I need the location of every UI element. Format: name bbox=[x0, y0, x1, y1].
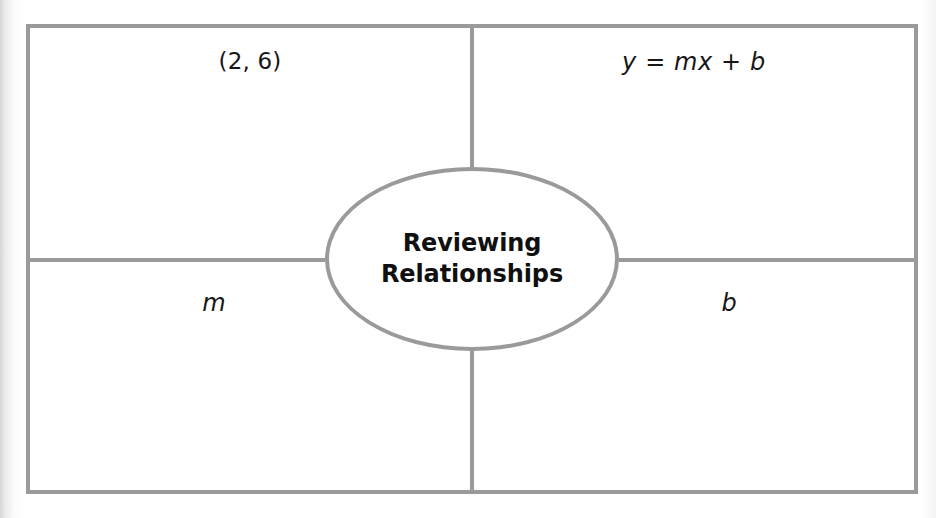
quadrant-top-left-label: (2, 6) bbox=[218, 48, 281, 74]
scanned-page: (2, 6) y = mx + b m b Reviewing Relation… bbox=[0, 0, 936, 518]
quadrant-bottom-right-label: b bbox=[721, 289, 736, 317]
center-oval-label: Reviewing Relationships bbox=[381, 228, 563, 289]
quadrant-bottom-left-label: m bbox=[202, 289, 225, 317]
page-edge-shadow-right bbox=[922, 0, 936, 518]
center-oval[interactable]: Reviewing Relationships bbox=[325, 167, 619, 351]
graphic-organizer: (2, 6) y = mx + b m b Reviewing Relation… bbox=[26, 24, 918, 494]
quadrant-top-right-label: y = mx + b bbox=[622, 48, 766, 76]
page-edge-shadow-left bbox=[0, 0, 26, 518]
